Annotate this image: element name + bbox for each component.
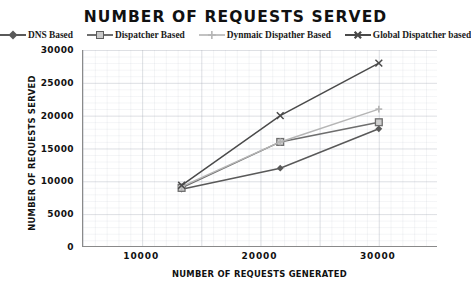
x-axis-title: NUMBER OF REQUESTS GENERATED [82, 269, 437, 279]
legend-item-dns-based[interactable]: DNS Based [0, 30, 73, 40]
y-tick-label: 10000 [41, 176, 74, 186]
y-axis-ticks: 0 5000 10000 15000 20000 25000 30000 [0, 50, 78, 247]
series-line [182, 122, 379, 188]
chart-legend: DNS Based Dispatcher Based Dynmaic Dispa… [0, 30, 471, 40]
x-tick-label: 30000 [360, 251, 396, 261]
data-point-marker [375, 125, 382, 132]
legend-item-dispatcher-based[interactable]: Dispatcher Based [87, 30, 185, 40]
legend-marker-x-icon [345, 30, 371, 40]
y-tick-label: 15000 [41, 144, 74, 154]
series-line [182, 109, 379, 186]
y-tick-label: 30000 [41, 45, 74, 55]
series-line [182, 129, 379, 189]
legend-item-global-dispatcher-based[interactable]: Global Dispatcher based [345, 30, 471, 40]
y-axis-title: NUMBER OF REQUESTS SERVED [27, 73, 37, 233]
y-tick-label: 0 [67, 242, 74, 252]
line-chart: NUMBER OF REQUESTS SERVED DNS Based Disp… [0, 0, 471, 287]
data-point-marker [375, 106, 382, 113]
legend-label: Dynmaic Dispather Based [227, 30, 331, 40]
data-point-marker [277, 112, 284, 119]
series-canvas [83, 50, 438, 247]
x-tick-label: 10000 [123, 251, 159, 261]
legend-label: Global Dispatcher based [373, 30, 471, 40]
legend-marker-square-icon [87, 30, 113, 40]
x-axis-ticks: 10000 20000 30000 [82, 251, 437, 265]
x-tick-label: 20000 [242, 251, 278, 261]
y-tick-label: 25000 [41, 78, 74, 88]
data-point-marker [375, 60, 382, 67]
y-tick-label: 20000 [41, 111, 74, 121]
legend-marker-diamond-icon [0, 30, 26, 40]
chart-title: NUMBER OF REQUESTS SERVED [0, 8, 471, 26]
legend-item-dynamic-dispatcher-based[interactable]: Dynmaic Dispather Based [199, 30, 331, 40]
legend-label: Dispatcher Based [115, 30, 185, 40]
legend-label: DNS Based [28, 30, 73, 40]
plot-area [82, 50, 437, 247]
data-point-marker [277, 165, 284, 172]
legend-marker-cross-icon [199, 30, 225, 40]
y-tick-label: 5000 [47, 209, 74, 219]
data-point-marker [375, 119, 382, 126]
